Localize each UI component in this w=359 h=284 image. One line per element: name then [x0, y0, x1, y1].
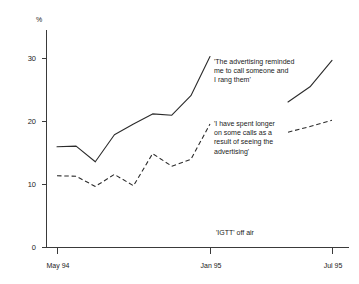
y-tick-label-0: 0 [16, 244, 36, 252]
y-tick-label-10: 10 [16, 181, 36, 189]
event-note-igtt-off-air: 'IGTT' off air [216, 229, 254, 236]
y-tick-label-20: 20 [16, 118, 36, 126]
annotation-dashed-line-3: result of seeing the [214, 137, 275, 146]
series-dashed-segment-left [57, 124, 210, 186]
annotation-solid-line-2: me to call someone and [214, 66, 294, 75]
series-solid-segment-right [288, 60, 332, 102]
annotation-dashed-line-2: on some calls as a [214, 128, 275, 137]
annotation-dashed-line-4: advertising' [214, 147, 275, 156]
x-tick-label-may-94: May 94 [37, 262, 79, 269]
y-tick-label-30: 30 [16, 55, 36, 63]
annotation-dashed-line-1: 'I have spent longer [214, 119, 275, 128]
annotation-solid-line-1: 'The advertising reminded [214, 57, 294, 66]
y-axis-unit-label: % [36, 16, 42, 23]
x-tick-label-jul-95: Jul 95 [313, 262, 353, 269]
annotation-solid-line-3: I rang them' [214, 75, 294, 84]
series-dashed-segment-right [288, 120, 332, 132]
annotation-dashed-series: 'I have spent longer on some calls as a … [214, 119, 275, 156]
series-solid-segment-left [57, 57, 210, 162]
annotation-solid-series: 'The advertising reminded me to call som… [214, 57, 294, 85]
x-tick-label-jan-95: Jan 95 [190, 262, 232, 269]
chart-container: % 30 20 10 0 May 94 Jan 95 Jul 95 'The a… [0, 0, 359, 284]
line-chart-plot [0, 0, 359, 284]
